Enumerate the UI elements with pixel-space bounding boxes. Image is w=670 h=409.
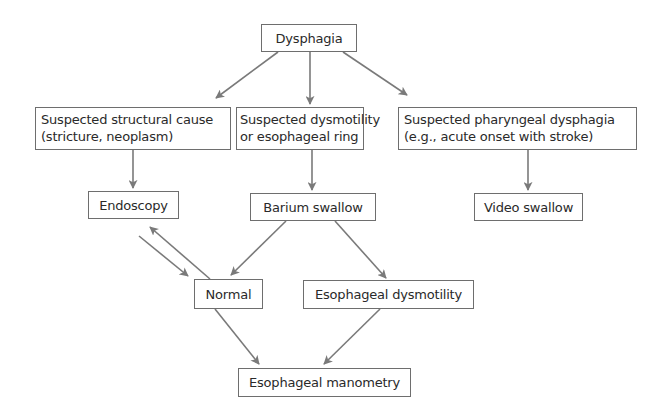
node-barium-label: Barium swallow	[263, 199, 362, 216]
node-pharyngeal-line1: Suspected pharyngeal dysphagia	[404, 111, 615, 128]
node-endoscopy: Endoscopy	[88, 191, 179, 219]
arrow-dysphagia-to-pharyngeal	[343, 52, 407, 95]
node-esophageal-dysmotility: Esophageal dysmotility	[303, 280, 474, 309]
node-suspected-pharyngeal-dysphagia: Suspected pharyngeal dysphagia (e.g., ac…	[398, 107, 637, 150]
arrow-endoscopy-to-normal	[139, 236, 188, 276]
node-dysphagia-label: Dysphagia	[276, 30, 343, 47]
node-esophageal-manometry: Esophageal manometry	[238, 368, 411, 397]
node-normal-label: Normal	[206, 286, 252, 303]
node-dysmotility-line1: Suspected dysmotility	[240, 111, 380, 128]
node-esophageal-dysmotility-label: Esophageal dysmotility	[315, 286, 462, 303]
node-dysphagia: Dysphagia	[261, 24, 357, 52]
node-structural-line2: (stricture, neoplasm)	[41, 128, 173, 145]
node-structural-line1: Suspected structural cause	[41, 111, 213, 128]
node-video-swallow: Video swallow	[474, 193, 583, 221]
arrow-esoph-dysmotility-to-manometry	[324, 309, 380, 364]
arrow-normal-to-manometry	[215, 309, 259, 364]
arrow-dysphagia-to-structural	[216, 52, 278, 98]
node-video-label: Video swallow	[484, 199, 573, 216]
arrow-barium-to-esoph-dysmotility	[335, 221, 386, 278]
node-barium-swallow: Barium swallow	[250, 193, 376, 221]
node-normal: Normal	[194, 279, 263, 309]
node-suspected-structural-cause: Suspected structural cause (stricture, n…	[35, 107, 231, 150]
node-manometry-label: Esophageal manometry	[249, 374, 400, 391]
node-endoscopy-label: Endoscopy	[99, 197, 168, 214]
arrow-barium-to-normal	[231, 221, 286, 275]
dysphagia-flowchart: Dysphagia Suspected structural cause (st…	[0, 0, 670, 409]
node-suspected-dysmotility: Suspected dysmotility or esophageal ring	[236, 107, 364, 150]
node-pharyngeal-line2: (e.g., acute onset with stroke)	[404, 128, 593, 145]
node-dysmotility-line2: or esophageal ring	[240, 128, 358, 145]
